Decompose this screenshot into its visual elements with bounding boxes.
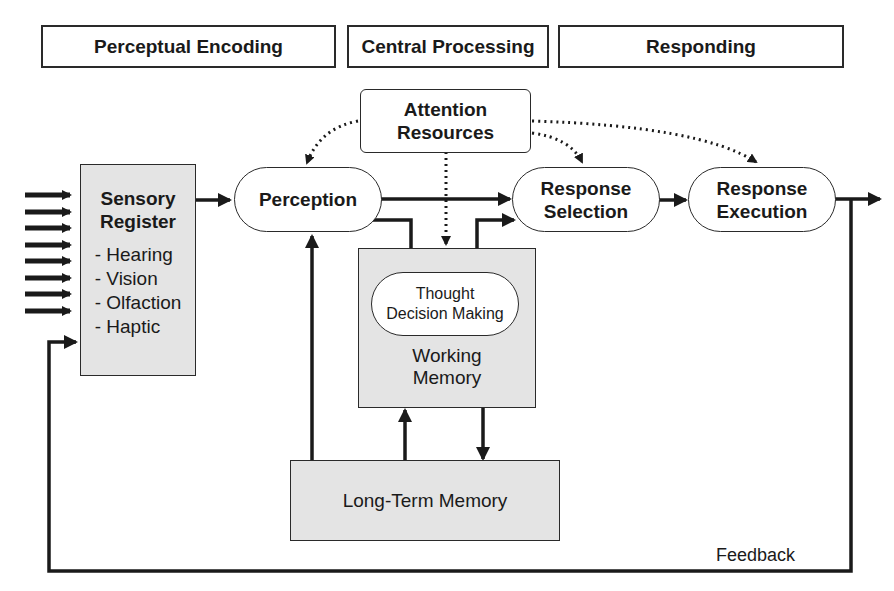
feedback-label: Feedback xyxy=(716,545,795,566)
stage-label: Responding xyxy=(646,36,756,58)
sense-item: - Vision xyxy=(95,267,182,291)
sensory-register-line1: Sensory xyxy=(100,187,176,210)
stage-label: Perceptual Encoding xyxy=(94,36,283,58)
response-execution-node: Response Execution xyxy=(688,167,836,232)
thought-line2: Decision Making xyxy=(386,304,503,324)
thought-line1: Thought xyxy=(416,284,475,304)
stage-central-processing: Central Processing xyxy=(347,25,549,68)
attention-resources-box: Attention Resources xyxy=(360,89,531,153)
long-term-memory-box: Long-Term Memory xyxy=(290,460,560,541)
response-selection-line1: Response xyxy=(541,177,632,200)
attention-to-selection xyxy=(532,133,582,162)
attention-label-line2: Resources xyxy=(397,121,494,144)
attention-label-line1: Attention xyxy=(404,98,487,121)
perception-label: Perception xyxy=(259,188,357,211)
response-selection-node: Response Selection xyxy=(512,167,660,232)
sense-item: - Hearing xyxy=(95,243,182,267)
thought-decision-node: Thought Decision Making xyxy=(371,272,519,336)
long-term-memory-label: Long-Term Memory xyxy=(343,490,508,512)
stage-perceptual-encoding: Perceptual Encoding xyxy=(41,25,336,68)
senses-list: - Hearing - Vision - Olfaction - Haptic xyxy=(95,243,182,339)
response-execution-line2: Execution xyxy=(717,200,808,223)
sensory-register-line2: Register xyxy=(100,210,176,233)
stimulus-arrows xyxy=(25,195,70,311)
sense-item: - Haptic xyxy=(95,315,182,339)
stage-responding: Responding xyxy=(558,25,844,68)
attention-to-execution xyxy=(532,121,756,162)
sensory-register-box: Sensory Register - Hearing - Vision - Ol… xyxy=(80,164,196,376)
working-memory-line2: Memory xyxy=(412,367,481,389)
attention-to-perception xyxy=(307,121,358,163)
response-execution-line1: Response xyxy=(717,177,808,200)
working-memory-line1: Working xyxy=(412,345,481,367)
sense-item: - Olfaction xyxy=(95,291,182,315)
response-selection-line2: Selection xyxy=(544,200,628,223)
perception-node: Perception xyxy=(234,167,382,232)
stage-label: Central Processing xyxy=(361,36,534,58)
